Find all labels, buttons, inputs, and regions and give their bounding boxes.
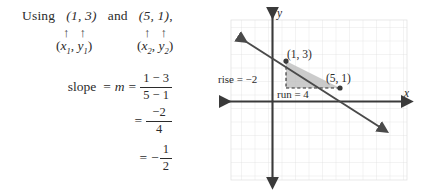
x-axis-label: x (404, 87, 409, 99)
point-2-variables: (x2, y2) (137, 38, 173, 56)
coordinate-graph: y x (1, 3) (5, 1) rise = −2 run = 4 (214, 0, 428, 193)
graph-svg (214, 0, 428, 193)
numerator: −2 (149, 106, 168, 120)
trailing-comma: , (169, 8, 173, 24)
point-2-graph-label: (5, 1) (326, 72, 351, 84)
paren-close: ) (88, 38, 93, 53)
slope-example-figure: Using (1, 3) and (5, 1) , ↑ ↑ ↑ ↑ (x1, y… (0, 0, 428, 193)
slope-word: slope (68, 79, 97, 95)
numerator: 1 (160, 143, 172, 157)
slope-step-1: slope = m = 1 − 3 5 − 1 (0, 70, 214, 104)
slope-step-3: = − 1 2 (0, 138, 214, 178)
negative-sign: − (151, 150, 159, 166)
m-variable: m (115, 79, 125, 95)
comma: , (152, 38, 155, 53)
point-1-graph-label: (1, 3) (287, 48, 312, 60)
comma: , (71, 38, 74, 53)
slope-step-2: = −2 4 (0, 104, 214, 138)
point-1-variables: (x1, y1) (56, 38, 92, 56)
and-word: and (108, 8, 128, 24)
fraction-step-2: −2 4 (146, 106, 172, 136)
denominator: 5 − 1 (140, 89, 172, 103)
run-label: run = 4 (277, 88, 309, 100)
equals-sign: = (129, 79, 137, 95)
rise-label: rise = −2 (218, 73, 257, 85)
paren-close: ) (169, 38, 174, 53)
equals-sign: = (134, 113, 142, 129)
worked-solution: Using (1, 3) and (5, 1) , ↑ ↑ ↑ ↑ (x1, y… (0, 0, 214, 193)
denominator: 4 (153, 123, 165, 137)
using-line: Using (1, 3) and (5, 1) , (22, 8, 173, 24)
slope-calculation: slope = m = 1 − 3 5 − 1 = −2 4 = (0, 70, 214, 178)
y-axis-label: y (277, 7, 282, 19)
equals-sign: = (140, 150, 148, 166)
point-2-marker (337, 85, 342, 90)
numerator: 1 − 3 (140, 72, 172, 86)
denominator: 2 (160, 160, 172, 174)
grid-background (231, 20, 407, 180)
equals-sign: = (103, 79, 111, 95)
fraction-step-1: 1 − 3 5 − 1 (140, 72, 172, 102)
fraction-step-3: 1 2 (160, 143, 172, 173)
point-1-text: (1, 3) (66, 8, 96, 24)
point-2-text: (5, 1) (139, 8, 169, 24)
using-word: Using (22, 8, 55, 24)
